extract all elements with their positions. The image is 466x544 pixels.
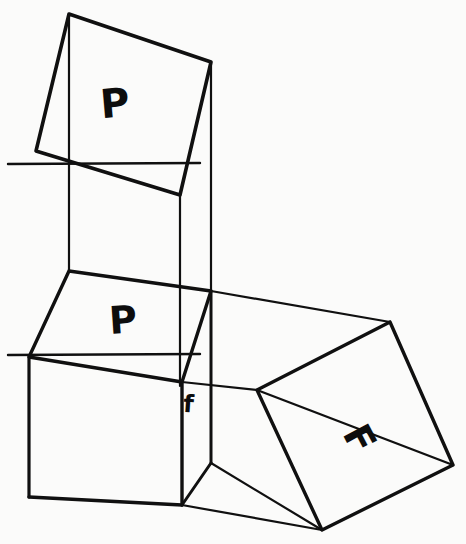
label-P-lower: P [108, 297, 139, 343]
label-P-upper: P [98, 79, 131, 127]
reference-line-upper [8, 163, 200, 164]
geometric-figure-canvas: PPFf [0, 0, 466, 544]
cube-bottom-right-edge [182, 463, 211, 505]
figure-drawing: PPFf [0, 0, 466, 544]
label-f-small: f [182, 390, 195, 419]
prism-F-mid-long-edge [182, 382, 257, 390]
label-layer: PPFf [98, 79, 385, 461]
prism-F-top-long-edge [211, 291, 390, 322]
reference-line-lower [8, 354, 200, 355]
stroke-layer [8, 14, 453, 530]
cube-bottom-front [29, 497, 182, 505]
